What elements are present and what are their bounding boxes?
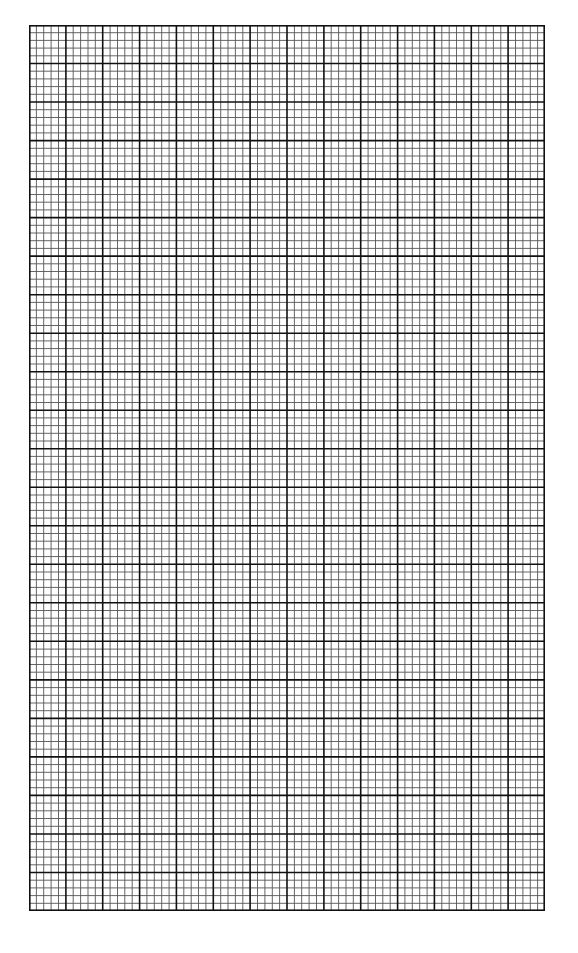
major-grid-lines bbox=[29, 25, 545, 911]
graph-grid bbox=[29, 25, 545, 911]
graph-paper-sheet bbox=[0, 0, 578, 953]
grid-lines bbox=[29, 25, 545, 911]
